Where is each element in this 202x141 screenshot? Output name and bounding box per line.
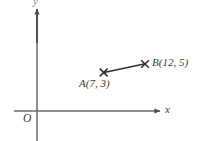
x-axis-label: x: [165, 104, 170, 115]
coordinate-diagram: O x y A(7, 3) B(12, 5): [0, 0, 202, 141]
point-a-label: A(7, 3): [79, 78, 110, 89]
point-b-label: B(12, 5): [152, 57, 188, 68]
origin-label: O: [23, 113, 31, 125]
y-axis-label: y: [33, 0, 38, 7]
segment-ab: [104, 64, 144, 73]
